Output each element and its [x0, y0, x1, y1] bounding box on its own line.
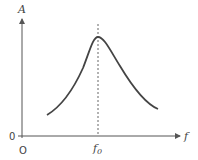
- y-origin-label: 0: [9, 131, 15, 142]
- resonance-curve: [47, 37, 158, 115]
- x-origin-label: O: [19, 145, 27, 156]
- resonance-diagram: A f 0 O f0: [0, 0, 198, 160]
- peak-frequency-label: f0: [92, 142, 102, 156]
- y-axis-label: A: [17, 3, 26, 16]
- x-axis-label: f: [183, 130, 190, 143]
- peak-label-subscript: 0: [97, 147, 102, 156]
